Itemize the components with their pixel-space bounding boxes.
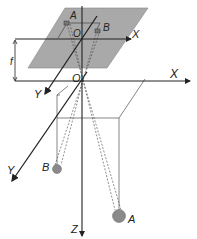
label-upper-b: B [103, 22, 110, 33]
projection-diagram: A B O X f O X Y Y B A Z [0, 0, 197, 239]
label-upper-x: X [131, 28, 140, 40]
label-ball-b: B [42, 161, 49, 173]
label-lower-o: O [72, 72, 81, 84]
image-point-b [95, 29, 100, 33]
ball-a [113, 210, 126, 223]
label-lower-y: Y [7, 164, 15, 176]
label-ball-a: A [127, 213, 135, 225]
label-upper-o: O [73, 28, 81, 39]
label-focal-f: f [10, 56, 14, 67]
label-upper-a: A [69, 10, 77, 21]
label-lower-x: X [169, 67, 179, 81]
image-plane [28, 8, 148, 68]
label-z: Z [70, 223, 79, 235]
image-point-a [64, 21, 69, 25]
label-upper-y: Y [34, 88, 42, 100]
ball-b [53, 165, 62, 174]
ground-plane [57, 79, 145, 118]
